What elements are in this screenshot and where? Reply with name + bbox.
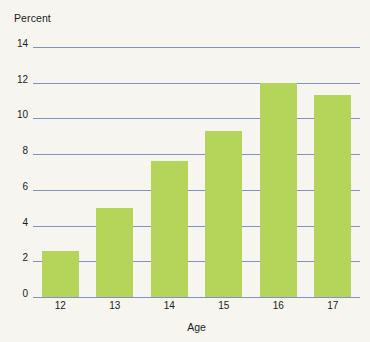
y-axis-tick-label: 14: [17, 38, 28, 49]
bar: [151, 161, 188, 297]
y-axis-tick-label: 2: [22, 252, 28, 263]
x-axis-tick-label: 12: [42, 300, 79, 311]
y-axis-tick-label: 0: [22, 288, 28, 299]
y-axis-tick-label: 12: [17, 73, 28, 84]
y-axis-tick-label: 8: [22, 145, 28, 156]
y-axis-tick-label: 10: [17, 109, 28, 120]
x-axis-tick-label: 17: [314, 300, 351, 311]
y-axis-tick-labels: 02468101214: [10, 47, 28, 297]
x-axis-tick-label: 15: [205, 300, 242, 311]
x-axis-tick-label: 14: [151, 300, 188, 311]
y-axis-tick-label: 4: [22, 216, 28, 227]
bars-layer: [33, 47, 360, 297]
bar: [96, 208, 133, 297]
x-axis-tick-labels: 121314151617: [33, 300, 360, 316]
x-axis-title: Age: [33, 321, 360, 333]
bar: [42, 251, 79, 297]
x-axis-tick-label: 16: [260, 300, 297, 311]
bar: [260, 83, 297, 297]
y-axis-title: Percent: [14, 12, 51, 24]
bar: [314, 95, 351, 297]
bar-chart: Percent 02468101214 121314151617 Age: [0, 0, 370, 342]
x-axis-tick-label: 13: [96, 300, 133, 311]
bar: [205, 131, 242, 297]
y-axis-tick-label: 6: [22, 180, 28, 191]
